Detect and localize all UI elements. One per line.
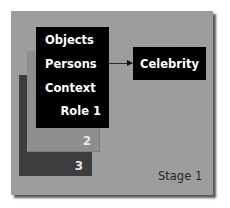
role-1-label: Role 1 [60,104,101,118]
celebrity-label: Celebrity [140,57,199,71]
role-1-box: Objects Persons Context Role 1 [36,27,109,128]
stage-label: Stage 1 [158,169,202,183]
persons-label: Persons [45,57,97,71]
role-2-label: 2 [83,134,91,148]
arrow-line [109,63,128,64]
context-label: Context [45,81,96,95]
objects-label: Objects [45,33,94,47]
celebrity-box: Celebrity [133,47,206,80]
role-3-label: 3 [75,159,83,173]
